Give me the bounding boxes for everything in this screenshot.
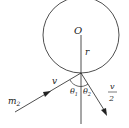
mass-label: m2: [8, 96, 21, 107]
incoming-velocity-label: v: [52, 76, 57, 86]
outgoing-velocity-numerator: v: [110, 82, 115, 91]
center-label: O: [74, 25, 82, 36]
outgoing-velocity-denominator: 2: [108, 94, 114, 103]
outgoing-arrowhead-icon: [101, 108, 107, 116]
radius-label: r: [85, 47, 90, 57]
angle2-label: θ2: [83, 87, 91, 97]
angle-arc: [70, 80, 88, 87]
incoming-arrowhead-icon: [43, 91, 51, 97]
collision-diagram: O r v m2 θ1 θ2 v 2: [0, 0, 129, 128]
angle1-label: θ1: [70, 87, 78, 97]
